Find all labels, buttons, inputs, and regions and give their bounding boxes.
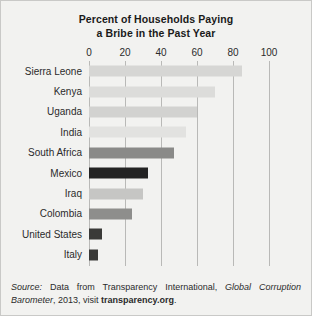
x-axis-tick-label: 80	[227, 46, 238, 59]
chart-title-line-1: Percent of Households Paying	[1, 12, 311, 26]
bar	[89, 106, 197, 117]
bar	[89, 147, 174, 158]
bar	[89, 127, 186, 138]
bar-row: Uganda	[1, 102, 311, 122]
bar-row: Italy	[1, 245, 311, 265]
bar-category-label: Kenya	[3, 86, 87, 97]
bar	[89, 86, 215, 97]
bar-row: Sierra Leone	[1, 61, 311, 81]
bar	[89, 229, 102, 240]
x-axis-tick-label: 100	[261, 46, 278, 59]
chart-plot-area: 020406080100 Sierra LeoneKenyaUgandaIndi…	[1, 46, 311, 266]
bar	[89, 66, 242, 77]
bar-row: Kenya	[1, 81, 311, 101]
bar-category-label: Italy	[3, 249, 87, 260]
x-axis-tick-label: 20	[119, 46, 130, 59]
bar	[89, 208, 132, 219]
x-axis-tick-labels: 020406080100	[1, 46, 311, 61]
source-period: .	[174, 295, 177, 305]
bar-rows: Sierra LeoneKenyaUgandaIndiaSouth Africa…	[1, 61, 311, 266]
bar-category-label: Mexico	[3, 168, 87, 179]
source-label: Source:	[11, 282, 42, 292]
bar-category-label: India	[3, 127, 87, 138]
chart-title: Percent of Households Paying a Bribe in …	[1, 1, 311, 40]
x-axis-tick-label: 40	[155, 46, 166, 59]
chart-title-line-2: a Bribe in the Past Year	[1, 26, 311, 40]
source-note: Source: Data from Transparency Internati…	[11, 281, 301, 306]
source-text-before: Data from Transparency International,	[42, 282, 225, 292]
bar-row: India	[1, 122, 311, 142]
bar-category-label: South Africa	[3, 147, 87, 158]
bar-category-label: Iraq	[3, 188, 87, 199]
bar-row: South Africa	[1, 143, 311, 163]
bar-category-label: Uganda	[3, 106, 87, 117]
bar-category-label: Colombia	[3, 208, 87, 219]
bar	[89, 188, 143, 199]
bar-row: United States	[1, 224, 311, 244]
bar-category-label: Sierra Leone	[3, 66, 87, 77]
x-axis-tick-label: 60	[191, 46, 202, 59]
bar-row: Mexico	[1, 163, 311, 183]
plot-canvas: Sierra LeoneKenyaUgandaIndiaSouth Africa…	[1, 61, 311, 266]
bar-row: Colombia	[1, 204, 311, 224]
x-axis-tick-label: 0	[86, 46, 92, 59]
chart-figure: Percent of Households Paying a Bribe in …	[0, 0, 312, 316]
source-website: transparency.org	[101, 295, 174, 305]
bar-row: Iraq	[1, 183, 311, 203]
bar	[89, 168, 148, 179]
source-text-after: , 2013, visit	[53, 295, 101, 305]
bar	[89, 249, 98, 260]
bar-category-label: United States	[3, 229, 87, 240]
